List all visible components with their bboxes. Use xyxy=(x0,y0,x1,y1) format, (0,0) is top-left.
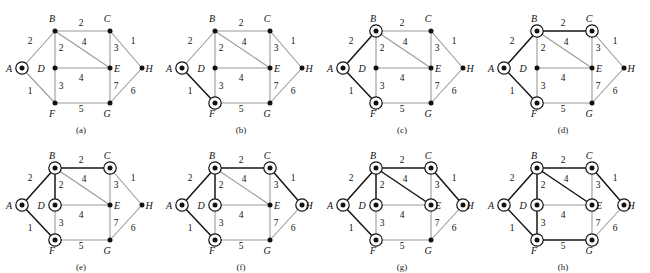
node-H: H xyxy=(457,199,475,211)
edge-weight-BC: 2 xyxy=(400,155,405,165)
node-F: F xyxy=(369,97,382,119)
edge-weight-BC: 2 xyxy=(239,155,244,165)
node-dot-F xyxy=(213,101,218,106)
edge-weight-DF: 3 xyxy=(380,218,385,228)
node-E: E xyxy=(590,63,603,74)
node-label-B: B xyxy=(209,150,215,161)
node-A: A xyxy=(487,199,510,211)
node-D: D xyxy=(357,63,378,74)
node-label-D: D xyxy=(357,63,366,74)
node-F: F xyxy=(48,101,58,120)
node-dot-D xyxy=(535,66,540,71)
node-label-B: B xyxy=(209,13,215,24)
node-B: B xyxy=(370,150,382,174)
edge-weight-BD: 2 xyxy=(380,43,385,53)
edge-weight-BC: 2 xyxy=(561,18,566,28)
node-B: B xyxy=(209,150,221,174)
node-label-F: F xyxy=(369,108,377,119)
edge-weight-BE: 4 xyxy=(403,37,408,47)
edge-weight-AF: 1 xyxy=(349,223,354,233)
node-dot-C xyxy=(429,29,434,34)
panel-c: 212243143756ABCDEFGH(c) xyxy=(321,0,483,136)
node-label-C: C xyxy=(425,13,432,24)
edge-weight-DF: 3 xyxy=(219,81,224,91)
edge-weight-FG: 5 xyxy=(239,241,244,251)
edge-weight-AB: 2 xyxy=(188,36,193,46)
node-dot-F xyxy=(374,101,379,106)
node-label-D: D xyxy=(36,63,45,74)
edge-weight-AF: 1 xyxy=(28,86,33,96)
edge-weight-EG: 7 xyxy=(596,218,601,228)
node-H: H xyxy=(296,199,314,211)
node-label-C: C xyxy=(586,13,593,24)
edge-weight-AB: 2 xyxy=(28,36,33,46)
node-dot-A xyxy=(502,203,507,208)
node-label-E: E xyxy=(595,63,602,74)
node-label-F: F xyxy=(369,245,377,256)
edge-weight-AB: 2 xyxy=(28,173,33,183)
edge-weight-CE: 3 xyxy=(274,180,279,190)
node-D: D xyxy=(518,63,539,74)
node-label-C: C xyxy=(425,150,432,161)
edge-weight-DF: 3 xyxy=(541,81,546,91)
node-label-B: B xyxy=(531,13,537,24)
node-F: F xyxy=(48,234,61,256)
edge-weight-EG: 7 xyxy=(274,81,279,91)
node-F: F xyxy=(530,234,543,256)
edge-weight-FG: 5 xyxy=(79,241,84,251)
edge-weight-FG: 5 xyxy=(79,104,84,114)
node-dot-A xyxy=(180,66,185,71)
node-H: H xyxy=(618,199,636,211)
edge-weight-AF: 1 xyxy=(349,86,354,96)
edge-weight-FG: 5 xyxy=(400,104,405,114)
node-dot-A xyxy=(341,66,346,71)
node-C: C xyxy=(586,13,599,37)
edge-weight-BD: 2 xyxy=(59,180,64,190)
edge-weight-BD: 2 xyxy=(541,180,546,190)
node-A: A xyxy=(5,62,28,74)
node-dot-D xyxy=(374,203,379,208)
edge-weight-GH: 6 xyxy=(452,223,457,233)
node-dot-F xyxy=(53,101,58,106)
edge-weight-FG: 5 xyxy=(561,104,566,114)
node-label-A: A xyxy=(487,200,495,211)
node-dot-C xyxy=(108,166,113,171)
node-label-F: F xyxy=(48,245,56,256)
edge-weight-BC: 2 xyxy=(400,18,405,28)
edge-weight-BD: 2 xyxy=(219,180,224,190)
edge-weight-BD: 2 xyxy=(59,43,64,53)
edge-weight-GH: 6 xyxy=(291,223,296,233)
node-dot-E xyxy=(429,66,434,71)
panel-g: 212243143756ABCDEFGH(g) xyxy=(321,137,483,273)
graph-diagram-c: 212243143756ABCDEFGH xyxy=(321,0,483,136)
node-dot-C xyxy=(268,166,273,171)
edge-weight-FG: 5 xyxy=(561,241,566,251)
node-label-F: F xyxy=(208,108,216,119)
graph-diagram-f: 212243143756ABCDEFGH xyxy=(160,137,322,273)
edge-weight-CH: 1 xyxy=(613,36,618,46)
panel-caption-g: (g) xyxy=(321,262,483,272)
edge-weight-BE: 4 xyxy=(403,174,408,184)
node-label-D: D xyxy=(36,200,45,211)
edge-weight-DF: 3 xyxy=(541,218,546,228)
node-B: B xyxy=(49,150,61,174)
edge-weight-CE: 3 xyxy=(435,180,440,190)
node-E: E xyxy=(425,199,441,211)
edge-weight-GH: 6 xyxy=(613,223,618,233)
node-dot-A xyxy=(20,203,25,208)
graph-steps-figure: 212243143756ABCDEFGH(a)212243143756ABCDE… xyxy=(0,0,650,273)
node-dot-F xyxy=(213,238,218,243)
node-label-G: G xyxy=(424,245,431,256)
node-D: D xyxy=(357,199,382,211)
edge-weight-DE: 4 xyxy=(400,210,405,220)
edge-weight-DE: 4 xyxy=(239,73,244,83)
node-dot-G xyxy=(268,238,273,243)
edge-weight-GH: 6 xyxy=(613,86,618,96)
node-label-E: E xyxy=(273,200,280,211)
graph-diagram-b: 212243143756ABCDEFGH xyxy=(160,0,322,136)
node-label-D: D xyxy=(357,200,366,211)
node-dot-D xyxy=(213,203,218,208)
node-dot-G xyxy=(429,101,434,106)
node-A: A xyxy=(326,62,349,74)
edge-weight-GH: 6 xyxy=(291,86,296,96)
